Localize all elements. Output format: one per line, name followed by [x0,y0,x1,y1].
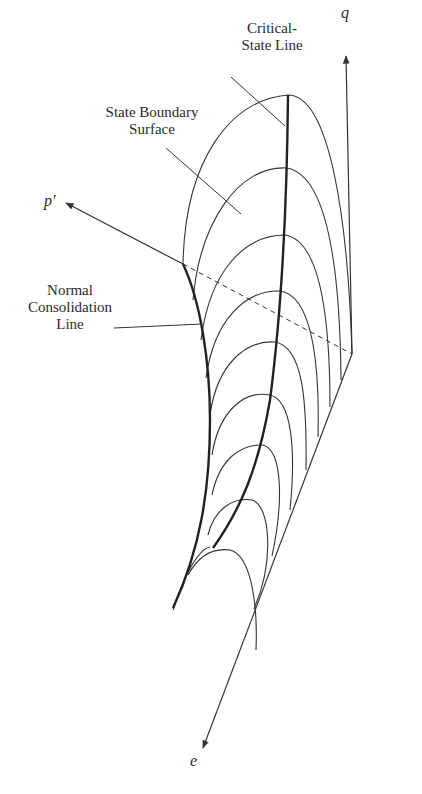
e-axis [203,354,352,748]
csl-leader [231,77,285,126]
normal-consolidation-line [173,264,210,608]
sbs-leader [166,148,241,214]
critical-state-line-label: Critical- State Line [222,20,322,54]
state-boundary-surface-label: State Boundary Surface [92,104,212,138]
normal-consolidation-line-label: Normal Consolidation Line [10,282,130,333]
e-axis-label: e [190,752,197,770]
q-axis [346,56,352,354]
dashed-projection-line [183,264,352,354]
q-axis-label: q [341,4,349,22]
p-axis-label: p′ [44,192,56,210]
p-axis [66,203,183,264]
critical-state-line [213,95,288,548]
